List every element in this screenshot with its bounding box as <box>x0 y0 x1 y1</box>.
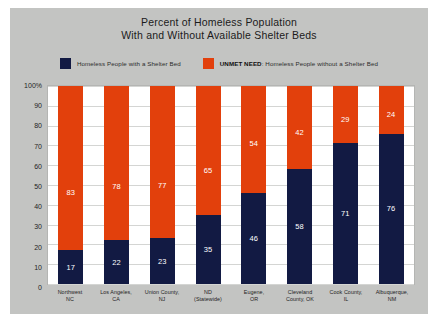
chart-legend: Homeless People with a Shelter Bed UNMET… <box>10 58 428 69</box>
y-axis-tick-label: 40 <box>34 203 42 210</box>
stacked-bar[interactable]: 2971 <box>333 86 358 284</box>
bar-value-label-sheltered: 71 <box>341 209 350 218</box>
slide-canvas: Percent of Homeless Population With and … <box>10 8 428 314</box>
bar-value-label-sheltered: 22 <box>112 258 121 267</box>
bar-slot: 7723 <box>140 86 186 284</box>
chart-title-line-2: With and Without Available Shelter Beds <box>10 29 428 42</box>
bar-value-label-sheltered: 23 <box>158 257 167 266</box>
bar-slot: 2476 <box>368 86 414 284</box>
bar-value-label-sheltered: 58 <box>295 222 304 231</box>
y-axis-tick-label: 100% <box>24 82 42 89</box>
bar-value-label-unmet: 29 <box>341 115 350 124</box>
plot-wrapper: 83177822772365355446425829712476 <box>47 85 415 285</box>
x-axis-tick-label-line: Northwest <box>47 289 93 296</box>
bar-segment-sheltered[interactable]: 58 <box>287 169 312 284</box>
legend-item-sheltered: Homeless People with a Shelter Bed <box>60 58 181 69</box>
x-axis-tick-label: Albuquerque,NM <box>369 289 415 303</box>
bar-value-label-unmet: 83 <box>66 188 75 197</box>
bar-segment-sheltered[interactable]: 35 <box>196 215 221 284</box>
bar-value-label-unmet: 78 <box>112 182 121 191</box>
legend-label-unmet: UNMET NEED: Homeless People without a Sh… <box>220 60 378 67</box>
stacked-bar[interactable]: 6535 <box>196 86 221 284</box>
bar-slot: 2971 <box>323 86 369 284</box>
bar-value-label-unmet: 54 <box>249 139 258 148</box>
legend-swatch-icon-sheltered <box>60 58 71 69</box>
legend-label-unmet-rest: : Homeless People without a Shelter Bed <box>262 60 378 67</box>
x-axis-tick-label: NorthwestNC <box>47 289 93 303</box>
bar-slot: 7822 <box>94 86 140 284</box>
gridline <box>48 284 414 285</box>
y-axis-tick-label: 70 <box>34 142 42 149</box>
stacked-bar[interactable]: 7822 <box>104 86 129 284</box>
y-axis-tick-label: 50 <box>34 183 42 190</box>
x-axis-tick-label-line: Albuquerque, <box>369 289 415 296</box>
bar-slot: 4258 <box>277 86 323 284</box>
x-axis-tick-label-line: NM <box>369 296 415 303</box>
stacked-bar[interactable]: 8317 <box>58 86 83 284</box>
x-axis-tick-label-line: Cleveland <box>277 289 323 296</box>
bar-segment-sheltered[interactable]: 17 <box>58 250 83 284</box>
bar-value-label-sheltered: 76 <box>387 204 396 213</box>
stacked-bar[interactable]: 2476 <box>379 86 404 284</box>
stacked-bar[interactable]: 5446 <box>241 86 266 284</box>
bar-segment-unmet[interactable]: 29 <box>333 86 358 143</box>
y-axis-tick-label: 30 <box>34 223 42 230</box>
bar-value-label-unmet: 77 <box>158 181 167 190</box>
bar-value-label-unmet: 65 <box>204 166 213 175</box>
bar-slot: 6535 <box>185 86 231 284</box>
x-axis-tick-label: ND(Statewide) <box>185 289 231 303</box>
bar-segment-unmet[interactable]: 54 <box>241 86 266 193</box>
y-axis-tick-label: 10 <box>34 263 42 270</box>
bar-segment-sheltered[interactable]: 76 <box>379 134 404 284</box>
bar-value-label-sheltered: 35 <box>204 245 213 254</box>
y-axis-tick-label: 0 <box>38 284 42 291</box>
chart-title-line-1: Percent of Homeless Population <box>10 16 428 29</box>
x-axis-tick-label-line: CA <box>93 296 139 303</box>
chart-title: Percent of Homeless Population With and … <box>10 16 428 42</box>
x-axis-tick-label: Cook County,IL <box>323 289 369 303</box>
bar-segment-sheltered[interactable]: 71 <box>333 143 358 284</box>
legend-label-unmet-strong: UNMET NEED <box>220 60 262 67</box>
x-axis-tick-label-line: Los Angeles, <box>93 289 139 296</box>
bar-segment-unmet[interactable]: 24 <box>379 86 404 134</box>
x-axis-tick-label-line: Cook County, <box>323 289 369 296</box>
bar-segment-unmet[interactable]: 65 <box>196 86 221 215</box>
x-axis-tick-label-line: ND <box>185 289 231 296</box>
bar-slot: 8317 <box>48 86 94 284</box>
y-axis-tick-label: 60 <box>34 162 42 169</box>
x-axis: NorthwestNCLos Angeles,CAUnion County,NJ… <box>47 289 415 303</box>
x-axis-tick-label: Union County,NJ <box>139 289 185 303</box>
x-axis-tick-label-line: OR <box>231 296 277 303</box>
stacked-bar[interactable]: 4258 <box>287 86 312 284</box>
x-axis-tick-label-line: (Statewide) <box>185 296 231 303</box>
bar-segment-unmet[interactable]: 42 <box>287 86 312 169</box>
bar-segment-sheltered[interactable]: 23 <box>150 238 175 284</box>
bar-slot: 5446 <box>231 86 277 284</box>
bar-segment-sheltered[interactable]: 46 <box>241 193 266 284</box>
x-axis-tick-label-line: NC <box>47 296 93 303</box>
bar-segment-unmet[interactable]: 83 <box>58 86 83 250</box>
x-axis-tick-label-line: Union County, <box>139 289 185 296</box>
bar-value-label-sheltered: 46 <box>249 234 258 243</box>
bar-segment-unmet[interactable]: 78 <box>104 86 129 240</box>
y-axis-tick-label: 20 <box>34 243 42 250</box>
x-axis-tick-label-line: IL <box>323 296 369 303</box>
bar-group: 83177822772365355446425829712476 <box>48 86 414 284</box>
bar-value-label-unmet: 24 <box>387 110 396 119</box>
x-axis-tick-label-line: Eugene, <box>231 289 277 296</box>
bar-segment-unmet[interactable]: 77 <box>150 86 175 238</box>
plot-area: 83177822772365355446425829712476 <box>47 85 415 285</box>
y-axis: 100%9080706050403020100 <box>10 85 44 287</box>
bar-segment-sheltered[interactable]: 22 <box>104 240 129 284</box>
legend-label-sheltered: Homeless People with a Shelter Bed <box>77 60 181 67</box>
legend-item-unmet: UNMET NEED: Homeless People without a Sh… <box>203 58 378 69</box>
x-axis-tick-label: Los Angeles,CA <box>93 289 139 303</box>
legend-swatch-icon-unmet <box>203 58 214 69</box>
y-axis-tick-label: 90 <box>34 102 42 109</box>
x-axis-tick-label: ClevelandCounty, OK <box>277 289 323 303</box>
x-axis-tick-label-line: County, OK <box>277 296 323 303</box>
x-axis-tick-label: Eugene,OR <box>231 289 277 303</box>
bar-value-label-unmet: 42 <box>295 128 304 137</box>
stacked-bar[interactable]: 7723 <box>150 86 175 284</box>
bar-value-label-sheltered: 17 <box>66 263 75 272</box>
